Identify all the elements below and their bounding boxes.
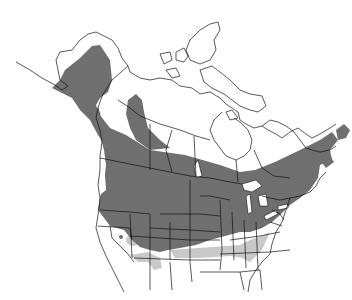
lake-huron bbox=[258, 194, 268, 206]
primary-range bbox=[52, 45, 350, 252]
range-map bbox=[0, 0, 352, 300]
